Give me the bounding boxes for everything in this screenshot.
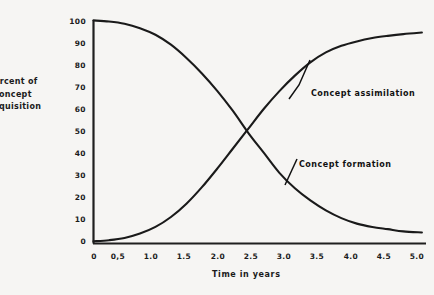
x-tick-label: 2.5 <box>237 252 265 261</box>
x-tick-label: 0,5 <box>104 252 132 261</box>
x-tick-label: 4.0 <box>337 252 365 261</box>
y-axis-title-line: ercent of <box>0 76 64 89</box>
x-tick-label: 2.0 <box>204 252 232 261</box>
y-axis-title-line: concept <box>0 89 64 102</box>
curve-concept-formation <box>94 20 422 232</box>
y-tick-label: 40 <box>56 149 86 158</box>
y-tick-label: 20 <box>56 193 86 202</box>
annotation-concept-formation: Concept formation <box>299 160 391 169</box>
x-tick-label: 1.0 <box>137 252 165 261</box>
x-tick-label: 1.5 <box>170 252 198 261</box>
y-axis-title-line: cquisition <box>0 101 64 114</box>
y-tick-label: 50 <box>56 127 86 136</box>
y-tick-label: 90 <box>56 39 86 48</box>
curve-concept-assimilation <box>94 33 422 242</box>
annotation-concept-assimilation: Concept assimilation <box>311 89 415 98</box>
y-tick-label: 0 <box>56 237 86 246</box>
x-tick-label: 0 <box>82 252 106 261</box>
x-tick-label: 3.0 <box>270 252 298 261</box>
x-tick-label: 5.0 <box>403 252 431 261</box>
x-tick-label: 3.5 <box>303 252 331 261</box>
y-tick-label: 30 <box>56 171 86 180</box>
x-axis-title: Time in years <box>212 270 281 279</box>
y-axis-title: ercent of concept cquisition <box>0 76 64 114</box>
x-tick-label: 4.5 <box>370 252 398 261</box>
chart-container: 100 90 80 70 60 50 40 30 20 10 0 0 0,5 1… <box>0 0 434 295</box>
y-tick-label: 100 <box>56 17 86 26</box>
y-tick-label: 80 <box>56 61 86 70</box>
y-tick-label: 10 <box>56 215 86 224</box>
leader-line-formation <box>285 159 297 185</box>
